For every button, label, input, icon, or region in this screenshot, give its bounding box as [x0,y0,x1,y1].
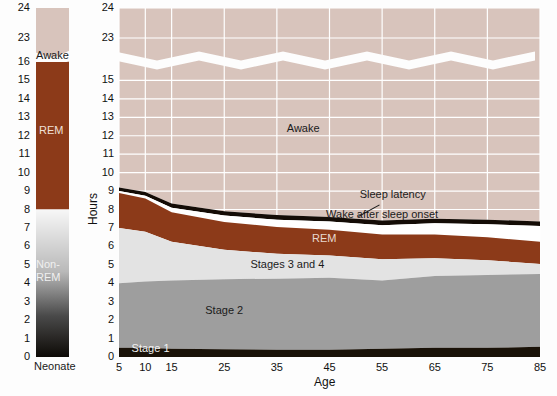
y-tick-5: 5 [96,258,114,270]
y-tick-24: 24 [96,1,114,13]
y-tick-7: 7 [96,221,114,233]
x-tick-5: 5 [105,361,133,373]
y-tick-9: 9 [96,184,114,196]
annotation-stage-2: Stage 2 [205,304,243,316]
y-tick-14: 14 [96,92,114,104]
x-tick-65: 65 [421,361,449,373]
x-tick-75: 75 [473,361,501,373]
annotation-rem: REM [312,232,336,244]
y-tick-2: 2 [96,313,114,325]
sleep-architecture-area-chart: AwakeSleep latencyWake after sleep onset… [0,0,557,396]
y-tick-8: 8 [96,203,114,215]
y-tick-13: 13 [96,110,114,122]
x-tick-45: 45 [316,361,344,373]
x-tick-85: 85 [526,361,554,373]
y-tick-6: 6 [96,239,114,251]
annotation-sleep-latency: Sleep latency [360,188,427,200]
x-tick-25: 25 [210,361,238,373]
x-axis-title: Age [314,375,335,389]
annotation-wake-after-sleep-onset: Wake after sleep onset [326,208,438,220]
figure-root: 0123456789101112131415162324 Neonate Awa… [0,0,557,396]
y-tick-15: 15 [96,73,114,85]
y-tick-4: 4 [96,276,114,288]
y-tick-12: 12 [96,129,114,141]
annotation-stages-3-and-4: Stages 3 and 4 [250,258,324,270]
x-tick-35: 35 [263,361,291,373]
y-tick-23: 23 [96,31,114,43]
x-tick-10: 10 [131,361,159,373]
band-stage-2 [119,274,540,350]
y-tick-11: 11 [96,147,114,159]
plot-top-margin [119,0,540,8]
annotation-stage-1: Stage 1 [132,342,170,354]
annotation-awake: Awake [287,122,320,134]
y-tick-3: 3 [96,295,114,307]
x-tick-55: 55 [368,361,396,373]
y-tick-10: 10 [96,166,114,178]
x-tick-15: 15 [158,361,186,373]
main-chart-panel: AwakeSleep latencyWake after sleep onset… [0,0,557,396]
y-tick-1: 1 [96,332,114,344]
